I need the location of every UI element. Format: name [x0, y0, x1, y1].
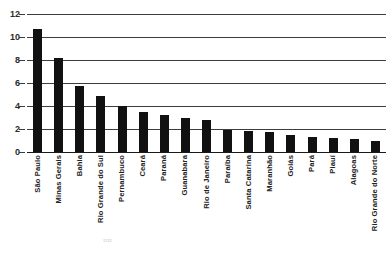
bar	[329, 138, 338, 152]
plot-area: 024681012	[27, 14, 386, 152]
x-axis-labels-group: São PauloMinas GeraisBahiaRio Grande do …	[27, 155, 386, 259]
bar	[202, 120, 211, 152]
x-axis-label: Pará	[308, 155, 316, 172]
bar	[308, 137, 317, 152]
x-axis-label: Bahia	[76, 155, 84, 176]
y-axis-tick-label: 10	[0, 33, 20, 42]
x-axis-label: Santa Catarina	[245, 155, 253, 210]
y-axis-tick-label: 2	[0, 125, 20, 134]
y-axis-tick-label: 4	[0, 102, 20, 111]
bar	[223, 130, 232, 152]
x-axis-label: Maranhão	[266, 155, 274, 192]
bar	[160, 115, 169, 152]
x-axis-label: Paraná	[160, 155, 168, 181]
bar	[371, 141, 380, 153]
bar	[33, 29, 42, 152]
x-axis-label: São Paulo	[34, 155, 42, 193]
y-axis-tick-label: 12	[0, 10, 20, 19]
x-axis-label: Rio Grande do Norte	[371, 155, 379, 231]
bar	[96, 96, 105, 152]
bars-group	[27, 14, 386, 152]
bar	[54, 58, 63, 152]
x-axis-label: Alagoas	[350, 155, 358, 185]
x-axis-label: Rio Grande do Sul	[97, 155, 105, 223]
x-axis-label: Rio de Janeiro	[203, 155, 211, 209]
x-axis-label: Piauí	[329, 155, 337, 174]
y-axis-tick-label: 6	[0, 79, 20, 88]
bar	[181, 118, 190, 153]
x-axis-label: Guanabara	[181, 155, 189, 196]
bar	[244, 131, 253, 152]
bar	[350, 139, 359, 152]
bar	[118, 106, 127, 152]
bar-chart-figure: 024681012 São PauloMinas GeraisBahiaRio …	[0, 0, 392, 259]
page-bleed-artifact: ¤¤	[103, 236, 112, 245]
x-axis-line	[27, 152, 386, 154]
bar	[139, 112, 148, 152]
x-axis-label: Pernambuco	[118, 155, 126, 202]
x-axis-label: Goiás	[287, 155, 295, 177]
y-axis-tick-label: 0	[0, 148, 20, 157]
x-axis-label: Minas Gerais	[55, 155, 63, 203]
bar	[265, 132, 274, 152]
x-axis-label: Ceará	[139, 155, 147, 177]
bar	[286, 135, 295, 152]
x-axis-label: Paraíba	[224, 155, 232, 183]
y-axis-tick-label: 8	[0, 56, 20, 65]
bar	[75, 86, 84, 152]
